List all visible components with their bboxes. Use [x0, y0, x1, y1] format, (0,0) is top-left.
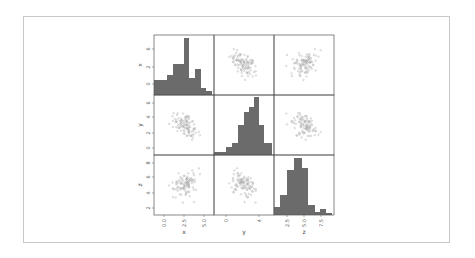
panel-x-z [274, 35, 334, 95]
scatter-point [297, 63, 299, 65]
scatter-point [193, 201, 195, 203]
scatter-point [184, 119, 186, 121]
scatter-point [242, 184, 244, 186]
scatter-point [180, 189, 182, 191]
scatter-point [249, 73, 251, 75]
x-tick-label: 7.5 [318, 219, 324, 227]
scatter-point [297, 71, 299, 73]
scatter-point [255, 190, 257, 192]
scatter-point [306, 70, 308, 72]
scatter-point [291, 75, 293, 77]
scatter-point [233, 173, 235, 175]
scatter-point [237, 57, 239, 59]
histogram-bar [308, 205, 315, 215]
scatter-point [248, 193, 250, 195]
panel-y-y [214, 95, 274, 155]
scatter-point [191, 139, 193, 141]
scatter-point [236, 49, 238, 51]
x-tick-label: 0.0 [161, 219, 167, 227]
panel-y-z [274, 95, 334, 155]
scatter-point [248, 64, 250, 66]
panel-x-y [214, 35, 274, 95]
scatter-point [172, 120, 174, 122]
y-tick-label: 0 [145, 82, 151, 85]
scatter-point [244, 201, 246, 203]
scatter-point [179, 187, 181, 189]
histogram-bar [232, 143, 238, 155]
y-tick-label: 6 [145, 101, 151, 104]
scatter-point [190, 177, 192, 179]
x-tick-label: 0 [223, 219, 229, 222]
scatter-point [191, 131, 193, 133]
scatter-point [247, 56, 249, 58]
scatter-point [229, 183, 231, 185]
scatter-point [237, 55, 239, 57]
scatter-point [314, 48, 316, 50]
histogram-bar [201, 88, 206, 95]
scatter-point [297, 113, 299, 115]
scatter-point [168, 185, 170, 187]
scatter-point [193, 175, 195, 177]
scatter-point [307, 135, 309, 137]
scatter-point [293, 117, 295, 119]
histogram-bar [184, 38, 189, 95]
x-axis-label-x: x [182, 228, 186, 235]
scatter-point [234, 189, 236, 191]
scatter-point [233, 48, 235, 50]
histogram-bar [249, 107, 254, 155]
histogram-bar [154, 80, 167, 95]
scatter-point [286, 124, 288, 126]
scatter-point [305, 139, 307, 141]
scatter-point [244, 54, 246, 56]
scatter-point [182, 120, 184, 122]
scatter-point [255, 71, 257, 73]
scatter-point [286, 113, 288, 115]
scatter-point [308, 70, 310, 72]
scatter-point [193, 189, 195, 191]
scatter-point [233, 59, 235, 61]
scatter-point [310, 57, 312, 59]
scatter-point [318, 56, 320, 58]
scatter-point [189, 195, 191, 197]
scatter-point [179, 123, 181, 125]
scatter-point [292, 59, 294, 61]
histogram-bar [173, 64, 184, 95]
scatter-point [255, 202, 257, 204]
histogram-bar [287, 170, 294, 215]
scatter-point [301, 55, 303, 57]
scatter-point [181, 194, 183, 196]
scatter-point [299, 114, 301, 116]
scatter-point [250, 70, 252, 72]
scatter-point [246, 63, 248, 65]
scatter-point [241, 173, 243, 175]
scatter-point [193, 173, 195, 175]
scatter-point [309, 135, 311, 137]
scatter-point [186, 118, 188, 120]
scatter-point [229, 56, 231, 58]
scatter-point [241, 75, 243, 77]
scatter-point [238, 67, 240, 69]
scatter-point [176, 126, 178, 128]
scatter-point [250, 181, 252, 183]
histogram-bar [167, 75, 173, 95]
scatter-point [243, 59, 245, 61]
scatter-point [182, 202, 184, 204]
scatter-point [244, 192, 246, 194]
scatter-point [199, 173, 201, 175]
scatter-point [176, 114, 178, 116]
scatter-point [310, 118, 312, 120]
scatter-point [299, 118, 301, 120]
y-tick-label: 4 [145, 191, 151, 194]
scatter-point [194, 179, 196, 181]
panel-y-x [154, 95, 214, 155]
scatter-point [243, 70, 245, 72]
scatter-point [194, 181, 196, 183]
scatter-point [198, 131, 200, 133]
scatter-point [235, 52, 237, 54]
scatter-point [255, 75, 257, 77]
scatter-point [193, 124, 195, 126]
panel-z-z [274, 155, 334, 215]
scatter-point [291, 73, 293, 75]
scatter-point [175, 197, 177, 199]
histogram-bar [214, 152, 226, 155]
